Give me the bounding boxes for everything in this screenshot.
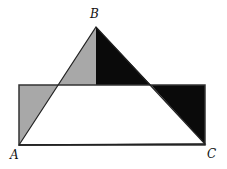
label-b: B xyxy=(89,7,99,21)
label-a: A xyxy=(9,148,19,162)
base-ac xyxy=(19,144,205,145)
geometry-diagram: B A C xyxy=(0,0,227,169)
label-c: C xyxy=(207,147,216,161)
